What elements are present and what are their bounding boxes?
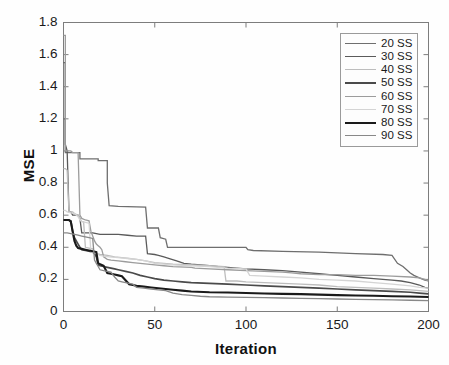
legend-swatch <box>345 122 376 124</box>
x-tick-label: 0 <box>44 317 84 332</box>
legend-item: 30 SS <box>345 50 412 63</box>
legend-label: 30 SS <box>381 51 412 63</box>
legend-label: 40 SS <box>381 64 412 76</box>
x-tick-label: 50 <box>135 317 175 332</box>
y-tick-label: 1 <box>12 142 58 157</box>
legend-item: 40 SS <box>345 63 412 76</box>
legend-label: 90 SS <box>381 130 412 142</box>
legend-label: 20 SS <box>381 38 412 50</box>
legend-label: 70 SS <box>381 104 412 116</box>
legend-swatch <box>345 82 376 84</box>
x-tick-label: 200 <box>409 317 449 332</box>
x-tick-label: 100 <box>226 317 266 332</box>
legend-swatch <box>345 56 376 57</box>
legend-item: 20 SS <box>345 37 412 50</box>
legend-item: 80 SS <box>345 116 412 129</box>
legend-swatch <box>345 43 376 44</box>
legend-swatch <box>345 135 376 136</box>
y-tick-label: 0.6 <box>12 206 58 221</box>
figure-container: MSE Iteration 00.20.40.60.811.21.41.61.8… <box>0 0 449 365</box>
legend-item: 60 SS <box>345 90 412 103</box>
legend-item: 90 SS <box>345 129 412 142</box>
y-tick-label: 1.2 <box>12 110 58 125</box>
legend-label: 60 SS <box>381 91 412 103</box>
y-tick-label: 1.6 <box>12 46 58 61</box>
series-line-40-ss <box>64 169 429 292</box>
x-axis-label: Iteration <box>186 340 306 357</box>
legend-item: 70 SS <box>345 103 412 116</box>
legend-swatch <box>345 96 376 97</box>
series-line-70-ss <box>64 210 429 288</box>
y-tick-label: 1.8 <box>12 14 58 29</box>
y-tick-label: 1.4 <box>12 78 58 93</box>
legend-swatch <box>345 109 376 110</box>
y-tick-label: 0.2 <box>12 270 58 285</box>
legend-label: 80 SS <box>381 117 412 129</box>
legend: 20 SS30 SS40 SS50 SS60 SS70 SS80 SS90 SS <box>340 33 418 147</box>
y-tick-label: 0 <box>12 303 58 318</box>
legend-swatch <box>345 69 376 70</box>
y-tick-label: 0.8 <box>12 174 58 189</box>
legend-label: 50 SS <box>381 77 412 89</box>
y-tick-label: 0.4 <box>12 238 58 253</box>
legend-item: 50 SS <box>345 77 412 90</box>
x-tick-label: 150 <box>317 317 357 332</box>
